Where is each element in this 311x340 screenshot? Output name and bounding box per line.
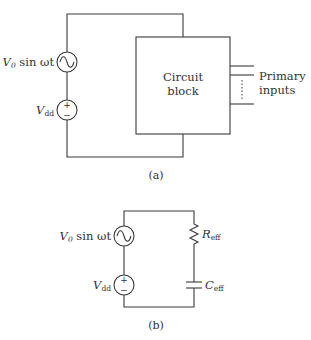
dc-source-icon-b: + −: [114, 275, 134, 295]
circuit-figure: V0 sin ωt + − Vdd Circuit block Primary …: [0, 0, 311, 340]
capacitor-icon: [186, 282, 202, 288]
bottom-wire: [67, 120, 183, 157]
svg-text:−: −: [120, 285, 128, 295]
svg-text:−: −: [63, 110, 71, 120]
capacitor-label: Ceff: [205, 278, 224, 293]
svg-text:+: +: [120, 275, 128, 285]
top-wire: [67, 14, 183, 52]
svg-text:+: +: [63, 100, 71, 110]
ac-source-icon-b: [114, 226, 134, 246]
caption-b: (b): [148, 319, 164, 332]
ac-source-label: V0 sin ωt: [3, 55, 55, 70]
panel-b: V0 sin ωt + − Vdd Reff Ceff (b): [60, 211, 225, 332]
caption-a: (a): [148, 169, 163, 182]
resistor-label: Reff: [201, 227, 221, 242]
resistor-icon: [190, 222, 198, 247]
ac-source-label-b: V0 sin ωt: [60, 229, 112, 244]
top-wire-b: [124, 211, 194, 226]
dc-source-label-b: Vdd: [93, 278, 111, 293]
dc-source-label: Vdd: [36, 103, 54, 118]
circuit-block-label-line2: block: [167, 84, 199, 98]
bottom-wire-b: [124, 288, 194, 307]
circuit-diagram: V0 sin ωt + − Vdd Circuit block Primary …: [0, 0, 311, 340]
circuit-block-label-line1: Circuit: [163, 70, 203, 84]
primary-inputs-label-line1: Primary: [259, 69, 306, 83]
panel-a: V0 sin ωt + − Vdd Circuit block Primary …: [3, 14, 307, 182]
dc-source-icon: + −: [57, 100, 77, 120]
primary-inputs-label-line2: inputs: [259, 83, 295, 97]
ac-source-icon: [57, 52, 77, 72]
primary-input-lines: [230, 66, 254, 104]
